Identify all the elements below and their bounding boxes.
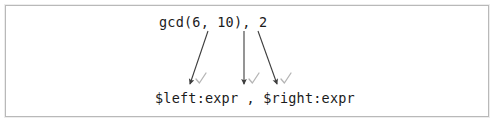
- macro-match-figure: gcd(6, 10), 2 $left:expr , $right:expr: [0, 0, 496, 124]
- source-invocation-text: gcd(6, 10), 2: [159, 14, 267, 30]
- macro-pattern-text: $left:expr , $right:expr: [155, 90, 355, 106]
